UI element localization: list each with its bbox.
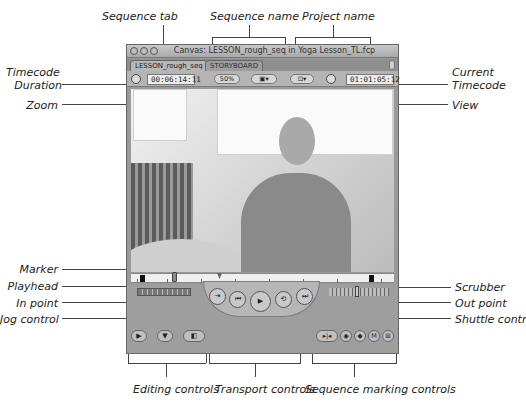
tick	[201, 279, 202, 283]
play-button[interactable]: ▶	[250, 291, 271, 312]
overwrite-icon: ▼	[162, 332, 167, 340]
zoom-popup[interactable]: 50%	[214, 74, 240, 84]
tick	[167, 279, 168, 283]
canvas-window: Canvas: LESSON_rough_seq in Yoga Lesson_…	[126, 44, 399, 354]
minimize-button[interactable]	[140, 47, 148, 55]
replace-button[interactable]: ◧	[183, 330, 205, 342]
current-timecode-icon	[326, 74, 336, 84]
person-head	[279, 117, 315, 165]
callout-project-name: Project name	[302, 10, 375, 23]
timecode-duration-field[interactable]: 00:06:14:11	[147, 74, 195, 85]
previous-edit-icon: ⏮	[235, 296, 241, 303]
leader-timecode-duration	[62, 84, 136, 85]
add-marker-icon: M	[371, 332, 377, 340]
timecode-duration-icon	[131, 74, 141, 84]
callout-timecode-duration-1: Timecode	[6, 66, 54, 79]
play-in-to-out-button[interactable]: ⇥	[209, 288, 226, 305]
leader-seq-name-stem	[249, 25, 250, 37]
callout-sequence-tab: Sequence tab	[102, 10, 178, 23]
callout-scrubber: Scrubber	[455, 281, 505, 294]
play-around-icon: ⟲	[281, 296, 287, 303]
in-point-icon[interactable]	[140, 275, 145, 282]
callout-editing-controls: Editing controls	[133, 383, 219, 396]
tick	[381, 279, 382, 283]
callout-transport-controls: Transport controls	[215, 383, 315, 396]
play-around-button[interactable]: ⟲	[275, 291, 292, 308]
tab-scroll-button[interactable]	[389, 60, 395, 70]
leader-jog	[62, 318, 136, 319]
mark-in-out-icon: ▸|◂	[323, 332, 332, 340]
foreground-object	[131, 239, 241, 272]
overlay-icon: ⊡▾	[298, 75, 307, 83]
callout-playhead: Playhead	[6, 280, 58, 293]
video-frame	[131, 89, 394, 272]
jog-control[interactable]	[137, 288, 191, 296]
previous-edit-button[interactable]: ⏮	[229, 291, 246, 308]
leader-out-point	[390, 302, 451, 303]
out-point-icon[interactable]	[369, 275, 374, 282]
view-mode-popup[interactable]: ▣▾	[251, 74, 277, 84]
match-frame-button[interactable]: ⊞	[382, 330, 394, 342]
add-keyframe-button[interactable]: ◆	[354, 330, 366, 342]
tab-bar: LESSON_rough_seq STORYBOARD	[127, 59, 398, 71]
play-in-to-out-icon: ⇥	[215, 293, 221, 300]
mark-clip-icon: ◉	[343, 332, 349, 340]
view-popup[interactable]: ⊡▾	[290, 74, 314, 84]
tab-storyboard[interactable]: STORYBOARD	[205, 60, 263, 71]
insert-icon: ▶	[136, 332, 141, 340]
callout-view: View	[452, 99, 478, 112]
shuttle-control[interactable]	[329, 288, 389, 296]
person-body	[241, 173, 351, 272]
tick	[137, 279, 138, 283]
leader-transport-stem	[255, 363, 256, 377]
playhead[interactable]	[172, 272, 177, 282]
leader-proj-name-bar	[295, 37, 371, 38]
window-title: Canvas: LESSON_rough_seq in Yoga Lesson_…	[157, 46, 392, 55]
leader-editing-bar	[128, 363, 206, 364]
leader-editing-stem	[166, 363, 167, 377]
marker-icon[interactable]	[217, 273, 222, 279]
callout-jog-control: Jog control	[0, 313, 58, 326]
transport-controls: ⇥ ⏮ ▶ ⟲ ⏭	[203, 281, 320, 317]
play-icon: ▶	[258, 298, 263, 305]
overwrite-button[interactable]: ▼	[157, 330, 173, 342]
current-timecode-field[interactable]: 01:01:05:12	[346, 74, 394, 85]
callout-current-timecode-2: Timecode	[452, 79, 506, 92]
next-edit-icon: ⏭	[302, 293, 308, 300]
callout-out-point: Out point	[455, 297, 507, 310]
match-frame-icon: ⊞	[385, 332, 390, 340]
callout-in-point: In point	[6, 297, 58, 310]
control-area: ⇥ ⏮ ▶ ⟲ ⏭ ▶ ▼ ◧ ▸|◂	[127, 285, 398, 353]
replace-icon: ◧	[191, 332, 198, 340]
mark-clip-button[interactable]: ◉	[340, 330, 352, 342]
window-left	[133, 89, 187, 141]
add-keyframe-icon: ◆	[358, 332, 363, 340]
leader-marking-stem	[354, 363, 355, 377]
close-button[interactable]	[130, 47, 138, 55]
next-edit-button[interactable]: ⏭	[296, 288, 313, 305]
tab-lesson-rough-seq[interactable]: LESSON_rough_seq	[130, 60, 208, 71]
view-mode-icon: ▣▾	[259, 75, 268, 83]
tick	[337, 279, 338, 283]
add-marker-button[interactable]: M	[368, 330, 380, 342]
callout-current-timecode-1: Current	[452, 66, 494, 79]
callout-sequence-marking-controls: Sequence marking controls	[305, 383, 456, 396]
callout-marker: Marker	[6, 263, 58, 276]
callout-zoom: Zoom	[6, 99, 58, 112]
callout-timecode-duration-2: Duration	[6, 79, 62, 92]
insert-button[interactable]: ▶	[131, 330, 147, 342]
canvas-top-bar: 00:06:14:11 50% ▣▾ ⊡▾ 01:01:05:12	[127, 71, 398, 87]
leader-seq-name-bar	[212, 37, 286, 38]
leader-current-tc	[396, 84, 448, 85]
mark-in-out-button[interactable]: ▸|◂	[316, 330, 338, 342]
callout-sequence-name: Sequence name	[210, 10, 299, 23]
leader-proj-name-stem	[333, 25, 334, 37]
callout-shuttle-control: Shuttle control	[455, 313, 526, 326]
title-bar[interactable]: Canvas: LESSON_rough_seq in Yoga Lesson_…	[127, 45, 398, 58]
shuttle-knob[interactable]	[355, 286, 359, 297]
